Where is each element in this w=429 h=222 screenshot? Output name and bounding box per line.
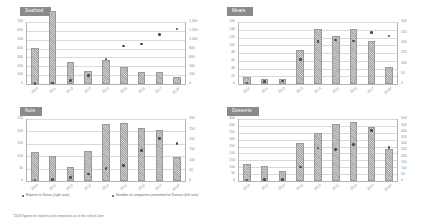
x-axis-tick: 2015 xyxy=(329,184,340,193)
x-axis-tick: 2011 xyxy=(46,87,57,96)
scatter-marker xyxy=(51,178,54,181)
footnote: *2018 figures for exports and companies … xyxy=(13,215,104,218)
x-axis-tick: 2011 xyxy=(258,184,269,193)
y-axis-tick-right: 400 xyxy=(189,65,209,68)
bar xyxy=(84,151,91,181)
y-axis-tick-right: 50 xyxy=(401,72,421,75)
y-axis-tick-right: 250 xyxy=(189,128,209,131)
scatter-marker xyxy=(352,143,355,146)
bar xyxy=(156,72,163,84)
y-axis-tick-right: 300 xyxy=(401,20,421,23)
scatter-marker xyxy=(299,58,302,61)
y-axis-tick-right: 200 xyxy=(189,73,209,76)
x-axis-tick: 2017 xyxy=(153,87,164,96)
y-axis-tick-right: 50 xyxy=(189,169,209,172)
x-axis-tick: 2012 xyxy=(276,87,287,96)
legend-entry-exports: Exports to Korea (right axis) xyxy=(22,194,69,198)
x-axis-tick: 2011 xyxy=(258,87,269,96)
x-axis-tick: 2018* xyxy=(170,87,181,96)
x-axis-line xyxy=(238,181,398,182)
y-axis-tick-right: 300 xyxy=(189,117,209,120)
y-axis-tick-right: 800 xyxy=(189,47,209,50)
x-axis-tick: 2016 xyxy=(347,87,358,96)
y-axis-tick-left: 200 xyxy=(2,130,23,133)
y-axis-tick-right: 1,000 xyxy=(189,38,209,41)
y-axis-tick-right: 200 xyxy=(189,138,209,141)
x-axis-tick: 2012 xyxy=(276,184,287,193)
scatter-marker xyxy=(69,176,72,179)
scatter-marker xyxy=(69,79,72,82)
y-axis-line-left xyxy=(26,119,27,181)
x-axis-tick: 2012 xyxy=(64,184,75,193)
bar xyxy=(350,122,357,181)
y-axis-tick-right: 100 xyxy=(401,62,421,65)
y-axis-tick-left: 20 xyxy=(214,75,235,78)
y-axis-tick-right: 500 xyxy=(401,117,421,120)
y-axis-tick-left: 0 xyxy=(2,179,23,182)
x-axis-tick: 2011 xyxy=(46,184,57,193)
y-axis-tick-left: 60 xyxy=(214,59,235,62)
y-axis-tick-right: 450 xyxy=(401,124,421,127)
y-axis-tick-left: 0 xyxy=(214,179,235,182)
y-axis-line-left xyxy=(26,22,27,84)
bar xyxy=(173,157,180,181)
x-axis-tick: 2017 xyxy=(153,184,164,193)
bar xyxy=(296,143,303,181)
bar xyxy=(49,156,56,181)
x-axis-tick: 2017 xyxy=(365,87,376,96)
x-axis-tick: 2015 xyxy=(117,87,128,96)
y-axis-tick-left: 200 xyxy=(214,152,235,155)
y-axis-tick-left: 450 xyxy=(214,117,235,120)
y-axis-tick-left: 100 xyxy=(214,44,235,47)
y-axis-tick-left: 150 xyxy=(214,159,235,162)
bar xyxy=(368,41,375,84)
y-axis-line-right xyxy=(397,119,398,181)
x-axis-tick: 2013 xyxy=(82,184,93,193)
x-axis-tick: 2014 xyxy=(99,184,110,193)
scatter-marker xyxy=(158,33,161,36)
y-axis-tick-right: 350 xyxy=(401,136,421,139)
x-axis-tick: 2014 xyxy=(311,184,322,193)
y-axis-tick-right: 100 xyxy=(401,167,421,170)
x-axis-tick: 2010 xyxy=(28,87,39,96)
bar xyxy=(314,29,321,84)
scatter-marker xyxy=(140,149,143,152)
y-axis-line-left xyxy=(238,22,239,84)
y-axis-tick-left: 350 xyxy=(214,131,235,134)
x-axis-tick: 2013 xyxy=(294,87,305,96)
panel-title: Desserts xyxy=(227,107,259,116)
scatter-marker xyxy=(370,31,373,34)
y-axis-tick-left: 100 xyxy=(2,155,23,158)
x-axis-tick: 2018* xyxy=(170,184,181,193)
gridline xyxy=(238,119,398,120)
y-axis-tick-left: 40 xyxy=(214,67,235,70)
y-axis-tick-right: 150 xyxy=(401,161,421,164)
x-axis-tick: 2018* xyxy=(382,87,393,96)
y-axis-tick-left: 200 xyxy=(2,65,23,68)
y-axis-tick-right: 0 xyxy=(189,179,209,182)
panel-title: Seafood xyxy=(20,7,51,16)
y-axis-tick-left: 300 xyxy=(214,138,235,141)
x-axis-tick: 2016 xyxy=(135,184,146,193)
y-axis-line-right xyxy=(185,22,186,84)
y-axis-line-left xyxy=(238,119,239,181)
bar xyxy=(120,123,127,181)
bar xyxy=(102,124,109,181)
panel-title: Meats xyxy=(227,7,253,16)
y-axis-tick-left: 160 xyxy=(214,20,235,23)
x-axis-tick: 2017 xyxy=(365,184,376,193)
y-axis-tick-left: 100 xyxy=(214,166,235,169)
bar xyxy=(385,67,392,84)
bar xyxy=(138,72,145,84)
figure-sheet: Seafood010020030040050060070002004006008… xyxy=(0,0,429,222)
scatter-marker xyxy=(34,82,37,85)
y-axis-tick-left: 120 xyxy=(214,36,235,39)
scatter-marker xyxy=(122,164,125,167)
y-axis-tick-right: 600 xyxy=(189,56,209,59)
scatter-marker xyxy=(140,43,143,46)
y-axis-tick-right: 50 xyxy=(401,173,421,176)
y-axis-tick-right: 1,200 xyxy=(189,29,209,32)
x-axis-line xyxy=(238,84,398,85)
chart-panel-desserts: Desserts05010015020025030035040045005010… xyxy=(214,104,429,188)
y-axis-tick-right: 0 xyxy=(401,82,421,85)
